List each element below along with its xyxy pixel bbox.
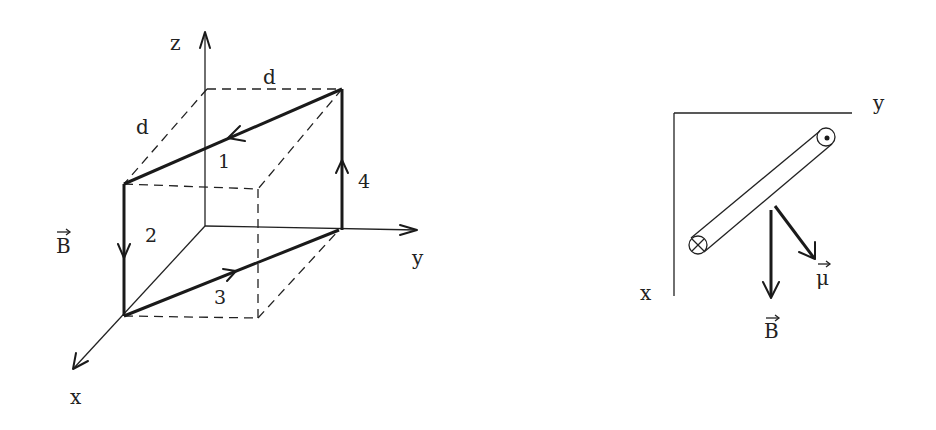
x-axis-label: x — [70, 385, 82, 409]
dashed-top-right-diag — [258, 89, 342, 189]
segment-4-label: 4 — [358, 170, 370, 192]
segment-1-label: 1 — [218, 150, 230, 172]
z-axis-label: z — [170, 31, 181, 55]
loop-rod-lower-edge — [704, 144, 832, 252]
right-field-label: B — [764, 319, 779, 343]
right-figure: y x B μ — [640, 91, 885, 343]
left-figure: z y x d d 1 2 3 4 B — [56, 31, 424, 409]
loop-rod-upper-edge — [691, 131, 820, 238]
y-axis-label: y — [411, 246, 424, 270]
segment-3-label: 3 — [214, 286, 226, 308]
x-axis — [73, 226, 205, 369]
field-label: B — [56, 234, 71, 258]
depth-label: d — [136, 115, 149, 139]
loop-segment-1 — [124, 89, 342, 184]
dot-center — [825, 136, 830, 141]
moment-label: μ — [816, 266, 829, 290]
dashed-mid-front-edge — [124, 184, 258, 189]
dashed-bottom-front-edge — [124, 316, 258, 318]
moment-vector — [775, 206, 814, 258]
segment-2-label: 2 — [145, 224, 157, 246]
width-label: d — [263, 65, 276, 89]
right-y-axis-label: y — [872, 91, 885, 115]
dashed-bottom-right-diag — [258, 230, 339, 318]
right-x-axis-label: x — [640, 281, 652, 305]
diagram-canvas: z y x d d 1 2 3 4 B y x B — [0, 0, 936, 430]
y-axis — [205, 226, 417, 230]
